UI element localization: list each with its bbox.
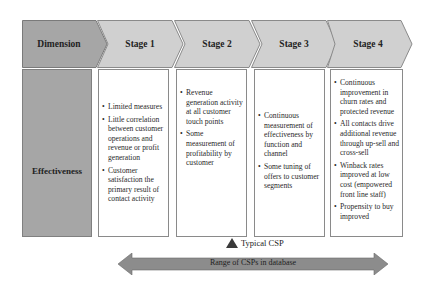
stage-2-content: Revenue generation activity at all custo… [176,69,247,237]
bullet-item: Propensity to buy improved [334,202,400,221]
range-label: Range of CSPs in database [118,258,388,267]
bullet-item: Revenue generation activity at all custo… [180,88,244,126]
bullet-item: Some tuning of offers to customer segmen… [258,162,322,191]
stage-4-label: Stage 4 [333,20,403,68]
effectiveness-row-label-box: Effectiveness [22,69,92,237]
bullet-item: All contacts drive additional revenue th… [334,119,400,157]
range-of-csps-arrow: Range of CSPs in database [118,253,388,275]
bullet-item: Customer satisfaction the primary result… [102,166,166,204]
bullet-item: Continuous measurement of effectiveness … [258,111,322,159]
stage-3-label: Stage 3 [259,20,329,68]
triangle-up-icon [226,238,238,248]
bullet-item: Continuous improvement in churn rates an… [334,78,400,116]
stage-2-label: Stage 2 [182,20,252,68]
stage-1-content: Limited measures Little correlation betw… [98,69,169,237]
typical-csp-label: Typical CSP [241,238,284,248]
stage-4-chevron: Stage 4 [327,20,413,68]
dimension-chevron: Dimension [22,20,108,68]
dimension-label: Dimension [22,20,96,68]
typical-csp-legend: Typical CSP [226,236,284,250]
stage-1-label: Stage 1 [105,20,175,68]
bullet-item: Limited measures [102,102,166,112]
bullet-item: Little correlation between customer oper… [102,115,166,163]
bullet-item: Winback rates improved at low cost (empo… [334,161,400,199]
stage-3-content: Continuous measurement of effectiveness … [254,69,325,237]
effectiveness-label: Effectiveness [23,166,91,176]
stage-4-content: Continuous improvement in churn rates an… [330,69,403,237]
stage-3-chevron: Stage 3 [251,20,338,68]
stage-1-chevron: Stage 1 [97,20,184,68]
bullet-item: Some measurement of profitability by cus… [180,129,244,167]
stage-2-chevron: Stage 2 [174,20,261,68]
